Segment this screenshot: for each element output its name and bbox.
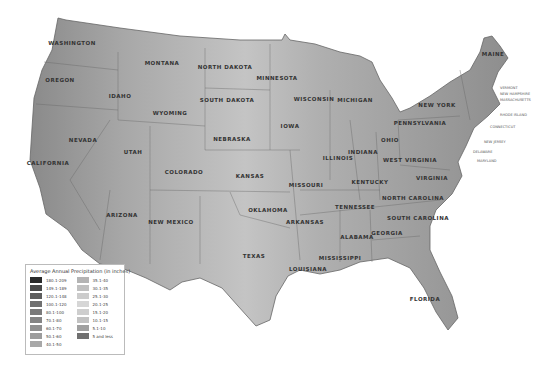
state-label: NORTH DAKOTA — [198, 64, 253, 70]
legend-item: 50.1-60 — [30, 333, 67, 339]
state-label-small: RHODE ISLAND — [500, 113, 527, 117]
state-label-small: DELAWARE — [473, 150, 492, 154]
legend-item: 10.1-15 — [77, 317, 113, 323]
legend-swatch — [77, 333, 89, 339]
state-label: IDAHO — [109, 93, 132, 99]
legend-item: 149.1-189 — [30, 285, 67, 291]
state-label: OHIO — [381, 137, 399, 143]
state-label: ILLINOIS — [323, 155, 353, 161]
legend-title: Average Annual Precipitation (in inches) — [30, 268, 120, 274]
legend-label: 35.1-40 — [93, 278, 108, 283]
legend-item: 40.1-50 — [30, 341, 67, 347]
state-label: UTAH — [124, 149, 143, 155]
state-label-small: NEW JERSEY — [484, 140, 506, 144]
legend-label: 40.1-50 — [46, 342, 61, 347]
legend-item: 60.1-70 — [30, 325, 67, 331]
state-label: LOUISIANA — [289, 266, 327, 272]
state-label: SOUTH DAKOTA — [200, 97, 254, 103]
state-label: CALIFORNIA — [27, 160, 69, 166]
legend-label: 180.1-209 — [46, 278, 67, 283]
legend-label: 30.1-35 — [93, 286, 108, 291]
state-label-small: MARYLAND — [477, 159, 497, 163]
state-label: NEW MEXICO — [148, 219, 194, 225]
legend-swatch — [30, 309, 42, 315]
legend-label: 25.1-30 — [93, 294, 108, 299]
legend-item: 20.1-25 — [77, 301, 113, 307]
state-label: NORTH CAROLINA — [382, 195, 444, 201]
state-label: WISCONSIN — [294, 96, 335, 102]
legend-swatch — [30, 293, 42, 299]
legend-column-right: 35.1-4030.1-3525.1-3020.1-2515.1-2010.1-… — [77, 277, 113, 347]
state-label: MISSISSIPPI — [319, 255, 362, 261]
legend-swatch — [30, 277, 42, 283]
state-label: WEST VIRGINIA — [383, 157, 437, 163]
state-label: PENNSYLVANIA — [394, 120, 447, 126]
state-label-small: MASSACHUSETTS — [500, 98, 531, 102]
legend-item: 100.1-120 — [30, 301, 67, 307]
legend-label: 70.1-80 — [46, 318, 61, 323]
state-label-small: NEW HAMPSHIRE — [500, 92, 530, 96]
legend-label: 149.1-189 — [46, 286, 67, 291]
legend-swatch — [77, 301, 89, 307]
legend-label: 10.1-15 — [93, 318, 108, 323]
state-label: IOWA — [281, 123, 300, 129]
state-label: OKLAHOMA — [248, 207, 288, 213]
state-label: WYOMING — [153, 110, 188, 116]
legend-swatch — [77, 277, 89, 283]
legend-swatch — [30, 333, 42, 339]
legend-swatch — [77, 293, 89, 299]
precipitation-legend: Average Annual Precipitation (in inches)… — [25, 264, 125, 355]
state-label-small: VERMONT — [500, 86, 518, 90]
legend-item: 80.1-100 — [30, 309, 67, 315]
state-label: GEORGIA — [371, 230, 403, 236]
state-label: INDIANA — [348, 149, 378, 155]
legend-item: 70.1-80 — [30, 317, 67, 323]
state-label: TENNESSEE — [335, 204, 375, 210]
legend-item: 5.1-10 — [77, 325, 113, 331]
legend-item: 25.1-30 — [77, 293, 113, 299]
state-label: SOUTH CAROLINA — [387, 215, 449, 221]
legend-label: 15.1-20 — [93, 310, 108, 315]
state-label: MAINE — [482, 51, 505, 57]
legend-swatch — [30, 341, 42, 347]
state-label-small: CONNECTICUT — [490, 125, 515, 129]
legend-column-left: 180.1-209149.1-189120.1-148100.1-12080.1… — [30, 277, 67, 347]
legend-label: 120.1-148 — [46, 294, 67, 299]
state-label: OREGON — [45, 77, 74, 83]
legend-swatch — [30, 301, 42, 307]
state-label: NEVADA — [69, 137, 97, 143]
state-label: ALABAMA — [340, 234, 374, 240]
legend-item: 15.1-20 — [77, 309, 113, 315]
state-label: MISSOURI — [289, 182, 324, 188]
legend-label: 5.1-10 — [93, 326, 106, 331]
legend-item: 30.1-35 — [77, 285, 113, 291]
legend-item: 180.1-209 — [30, 277, 67, 283]
legend-swatch — [30, 325, 42, 331]
legend-label: 60.1-70 — [46, 326, 61, 331]
legend-swatch — [77, 317, 89, 323]
legend-label: 20.1-25 — [93, 302, 108, 307]
state-label: WASHINGTON — [48, 40, 96, 46]
state-label: MONTANA — [145, 60, 180, 66]
state-label: ARKANSAS — [286, 219, 324, 225]
state-label: MINNESOTA — [256, 75, 297, 81]
legend-item: 120.1-148 — [30, 293, 67, 299]
state-label: MICHIGAN — [337, 97, 373, 103]
legend-label: 80.1-100 — [46, 310, 64, 315]
legend-label: 5 and less — [93, 334, 113, 339]
legend-label: 100.1-120 — [46, 302, 67, 307]
legend-swatch — [30, 285, 42, 291]
legend-item: 5 and less — [77, 333, 113, 339]
state-label: FLORIDA — [410, 296, 440, 302]
state-label: TEXAS — [243, 253, 265, 259]
state-label: NEW YORK — [418, 102, 455, 108]
legend-swatch — [77, 285, 89, 291]
legend-swatch — [77, 309, 89, 315]
state-label: VIRGINIA — [416, 175, 448, 181]
state-label: COLORADO — [165, 169, 203, 175]
state-label: KENTUCKY — [351, 179, 388, 185]
state-label: NEBRASKA — [213, 136, 251, 142]
legend-swatch — [30, 317, 42, 323]
legend-swatch — [77, 325, 89, 331]
state-label: KANSAS — [236, 173, 264, 179]
